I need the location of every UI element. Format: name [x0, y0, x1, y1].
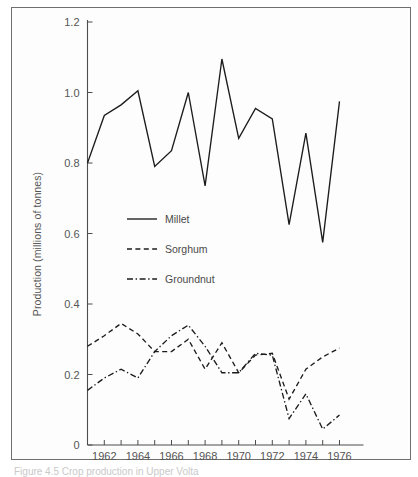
y-tick-label: 0.4 — [64, 298, 79, 310]
legend-label-millet: Millet — [165, 213, 190, 225]
x-tick-labels: 19621964196619681970197219741976 — [92, 450, 352, 462]
x-tick-label: 1966 — [159, 450, 183, 462]
x-tick-marks — [88, 440, 340, 445]
legend-label-groundnut: Groundnut — [165, 273, 215, 285]
x-tick-label: 1962 — [92, 450, 116, 462]
legend-label-sorghum: Sorghum — [165, 243, 208, 255]
y-tick-label: 1.2 — [64, 16, 79, 28]
figure-caption: Figure 4.5 Crop production in Upper Volt… — [14, 466, 199, 477]
y-tick-label: 0.6 — [64, 228, 79, 240]
x-tick-label: 1974 — [294, 450, 318, 462]
figure-container: 00.20.40.60.81.01.2 19621964196619681970… — [0, 0, 418, 477]
legend: MilletSorghumGroundnut — [127, 213, 215, 285]
series-line-sorghum — [88, 323, 340, 399]
plot-area: 00.20.40.60.81.01.2 19621964196619681970… — [0, 0, 418, 477]
y-tick-marks — [88, 22, 93, 445]
axes: 00.20.40.60.81.01.2 19621964196619681970… — [64, 16, 363, 462]
y-tick-label: 0.2 — [64, 369, 79, 381]
y-tick-label: 0 — [73, 439, 79, 451]
x-tick-label: 1968 — [193, 450, 217, 462]
series-group — [88, 59, 340, 429]
x-tick-label: 1970 — [226, 450, 250, 462]
y-axis-label: Production (millions of tonnes) — [31, 149, 43, 339]
x-tick-label: 1972 — [260, 450, 284, 462]
y-tick-label: 0.8 — [64, 157, 79, 169]
x-tick-label: 1976 — [327, 450, 351, 462]
line-chart: 00.20.40.60.81.01.2 19621964196619681970… — [0, 0, 418, 477]
y-tick-labels: 00.20.40.60.81.01.2 — [64, 16, 79, 451]
x-tick-label: 1964 — [126, 450, 150, 462]
y-tick-label: 1.0 — [64, 87, 79, 99]
series-line-millet — [88, 59, 340, 242]
